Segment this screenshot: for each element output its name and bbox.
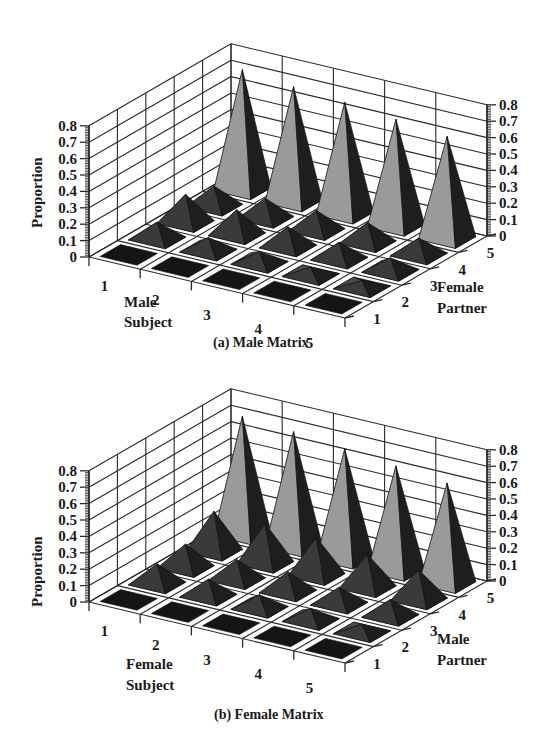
panel-male-matrix: 00.10.20.30.40.50.60.70.800.10.20.30.40.… — [0, 0, 557, 375]
svg-text:0.2: 0.2 — [499, 195, 518, 211]
svg-text:0.8: 0.8 — [58, 463, 77, 479]
chart-caption: (a) Male Matrix — [213, 335, 309, 351]
svg-text:3: 3 — [203, 652, 211, 668]
svg-text:0.8: 0.8 — [499, 97, 518, 113]
svg-text:4: 4 — [458, 262, 466, 278]
svg-text:0.5: 0.5 — [499, 146, 518, 162]
svg-text:0.8: 0.8 — [499, 442, 518, 458]
x-axis-label-line2: Subject — [126, 676, 174, 695]
svg-text:0: 0 — [499, 573, 507, 589]
chart-3d-male-matrix: 00.10.20.30.40.50.60.70.800.10.20.30.40.… — [0, 0, 557, 375]
svg-text:2: 2 — [402, 294, 410, 310]
svg-text:0.4: 0.4 — [58, 528, 77, 544]
svg-text:0: 0 — [499, 228, 507, 244]
svg-text:4: 4 — [254, 666, 262, 682]
svg-text:1: 1 — [373, 311, 381, 327]
svg-text:0.2: 0.2 — [58, 216, 77, 232]
y-axis-label-line1: Female — [437, 278, 484, 297]
svg-text:0.2: 0.2 — [499, 540, 518, 556]
chart-3d-female-matrix: 00.10.20.30.40.50.60.70.800.10.20.30.40.… — [0, 375, 557, 755]
svg-text:0.1: 0.1 — [58, 233, 77, 249]
svg-text:0.1: 0.1 — [499, 212, 518, 228]
svg-text:0.3: 0.3 — [58, 545, 77, 561]
svg-text:5: 5 — [487, 245, 495, 261]
z-axis-label: Proportion — [29, 536, 46, 607]
svg-text:0.5: 0.5 — [58, 167, 77, 183]
svg-text:0.8: 0.8 — [58, 118, 77, 134]
panel-female-matrix: 00.10.20.30.40.50.60.70.800.10.20.30.40.… — [0, 375, 557, 755]
svg-text:0.4: 0.4 — [58, 183, 77, 199]
svg-text:1: 1 — [101, 278, 109, 294]
svg-text:4: 4 — [458, 607, 466, 623]
x-axis-label-line1: Male — [124, 293, 156, 312]
svg-text:0.1: 0.1 — [499, 557, 518, 573]
svg-text:0.7: 0.7 — [58, 479, 77, 495]
svg-text:0.4: 0.4 — [499, 507, 518, 523]
svg-text:0.1: 0.1 — [58, 578, 77, 594]
svg-text:0.7: 0.7 — [499, 458, 518, 474]
svg-text:0.7: 0.7 — [58, 134, 77, 150]
svg-text:5: 5 — [306, 680, 314, 696]
svg-text:0.3: 0.3 — [58, 200, 77, 216]
svg-text:1: 1 — [101, 623, 109, 639]
svg-text:0.3: 0.3 — [499, 524, 518, 540]
y-axis-label-line2: Partner — [437, 299, 487, 318]
svg-text:0.2: 0.2 — [58, 561, 77, 577]
svg-text:5: 5 — [487, 590, 495, 606]
svg-text:0.3: 0.3 — [499, 179, 518, 195]
svg-text:0: 0 — [70, 249, 78, 265]
z-axis-label: Proportion — [29, 157, 46, 228]
svg-text:2: 2 — [402, 639, 410, 655]
x-axis-label-line1: Female — [126, 655, 173, 674]
svg-text:0.7: 0.7 — [499, 113, 518, 129]
svg-text:0.6: 0.6 — [499, 130, 518, 146]
svg-text:0.5: 0.5 — [499, 491, 518, 507]
svg-text:0.6: 0.6 — [58, 496, 77, 512]
svg-text:1: 1 — [373, 656, 381, 672]
svg-text:2: 2 — [152, 637, 160, 653]
svg-text:3: 3 — [203, 307, 211, 323]
svg-text:0.5: 0.5 — [58, 512, 77, 528]
svg-text:0.6: 0.6 — [58, 151, 77, 167]
svg-text:0.6: 0.6 — [499, 475, 518, 491]
chart-caption: (b) Female Matrix — [214, 707, 324, 723]
svg-text:0.4: 0.4 — [499, 162, 518, 178]
x-axis-label-line2: Subject — [124, 313, 172, 332]
y-axis-label-line1: Male — [437, 630, 469, 649]
y-axis-label-line2: Partner — [437, 651, 487, 670]
svg-text:0: 0 — [70, 594, 78, 610]
